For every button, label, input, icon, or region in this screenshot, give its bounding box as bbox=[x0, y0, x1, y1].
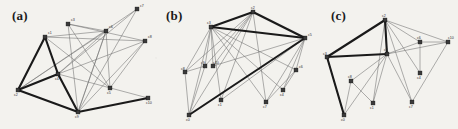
graph-edge-backbone bbox=[327, 57, 344, 115]
graph-edge-backbone bbox=[189, 38, 305, 115]
panel-label-a: (a) bbox=[12, 8, 28, 24]
graph-node[interactable] bbox=[410, 100, 414, 104]
graph-node[interactable] bbox=[418, 40, 422, 44]
graph-node[interactable] bbox=[43, 35, 47, 39]
graph-node-label: c4 bbox=[280, 93, 284, 97]
graph-edge bbox=[213, 38, 305, 66]
graph-edge bbox=[412, 42, 448, 102]
graph-edge-backbone bbox=[18, 37, 45, 90]
graph-node-label: c0 bbox=[186, 118, 190, 122]
graph-edge bbox=[266, 38, 305, 102]
graph-node[interactable] bbox=[209, 25, 213, 29]
graph-node[interactable] bbox=[446, 40, 450, 44]
graph-edge bbox=[385, 20, 412, 102]
panel-label-c: (c) bbox=[331, 8, 346, 24]
graph-edge bbox=[387, 42, 420, 54]
graph-edge bbox=[373, 54, 387, 103]
graph-node-label: c7 bbox=[140, 4, 144, 8]
graph-node[interactable] bbox=[383, 18, 387, 22]
graph-edge-backbone bbox=[78, 98, 148, 112]
graph-nodes: c2c3c5c8c9c10c6c4c1c7c0 bbox=[181, 6, 312, 122]
graph-edge bbox=[266, 70, 296, 102]
graph-node[interactable] bbox=[371, 101, 375, 105]
graph-edge bbox=[185, 12, 253, 72]
graph-node[interactable] bbox=[16, 88, 20, 92]
graph-node-label: c3 bbox=[207, 21, 211, 25]
graph-node-label: c6 bbox=[109, 25, 113, 29]
graph-edge bbox=[253, 12, 266, 102]
thin-edges bbox=[327, 20, 448, 115]
graph-node[interactable] bbox=[108, 86, 112, 90]
graph-node-label: c10 bbox=[213, 61, 219, 65]
graph-edge bbox=[351, 54, 387, 81]
graph-node-label: c2 bbox=[382, 14, 386, 18]
graph-edge bbox=[385, 20, 420, 42]
graph-edge bbox=[385, 20, 420, 73]
graph-edge bbox=[110, 41, 145, 88]
graph-edge bbox=[211, 27, 266, 102]
graph-edge bbox=[78, 9, 137, 112]
graph-edge-backbone bbox=[327, 20, 385, 57]
graph-node-label: c1 bbox=[218, 103, 222, 107]
graph-node[interactable] bbox=[143, 39, 147, 43]
graph-edge bbox=[351, 81, 373, 103]
graph-node-label: c8 bbox=[181, 67, 185, 71]
graph-node-label: c3 bbox=[323, 52, 327, 56]
graph-node-label: c2 bbox=[251, 6, 255, 10]
graph-node-label: c5 bbox=[384, 48, 388, 52]
graph-node-label: c1 bbox=[48, 31, 52, 35]
graph-node[interactable] bbox=[104, 29, 108, 33]
graph-node[interactable] bbox=[146, 96, 150, 100]
graph-node-label: c6 bbox=[417, 36, 421, 40]
graph-node-label: c7 bbox=[263, 105, 267, 109]
graph-node-label: c6 bbox=[299, 65, 303, 69]
graph-node[interactable] bbox=[56, 72, 60, 76]
graph-node[interactable] bbox=[187, 113, 191, 117]
graph-node-label: c4 bbox=[55, 77, 59, 81]
graph-node-label: c1 bbox=[370, 106, 374, 110]
figure-graph-panels: c1c2c3c4c5c6c7c8c9c10 c2c3c5c8c9c10c6c4c… bbox=[0, 0, 458, 129]
graph-node[interactable] bbox=[385, 52, 389, 56]
graph-edge bbox=[373, 20, 385, 103]
graph-edge bbox=[283, 70, 296, 90]
graph-node-label: c0 bbox=[341, 118, 345, 122]
graph-node-label: c9 bbox=[201, 61, 205, 65]
graph-node-label: c7 bbox=[409, 105, 413, 109]
graph-node[interactable] bbox=[418, 71, 422, 75]
graph-node-label: c4 bbox=[417, 76, 421, 80]
panel-label-b: (b) bbox=[166, 8, 183, 24]
graph-node-label: c3 bbox=[71, 18, 75, 22]
graph-edge-backbone bbox=[327, 54, 387, 57]
graph-node[interactable] bbox=[76, 110, 80, 114]
graph-node[interactable] bbox=[219, 98, 223, 102]
graph-edge bbox=[387, 54, 412, 102]
graph-node-label: c8 bbox=[348, 75, 352, 79]
graph-node[interactable] bbox=[66, 22, 70, 26]
graph-node[interactable] bbox=[281, 88, 285, 92]
graph-node-label: c10 bbox=[146, 101, 152, 105]
graph-edge bbox=[211, 27, 296, 70]
graph-node-label: c2 bbox=[14, 93, 18, 97]
graph-node[interactable] bbox=[135, 7, 139, 11]
graph-node[interactable] bbox=[264, 100, 268, 104]
graph-node[interactable] bbox=[342, 113, 346, 117]
graph-c: c2c3c5c6c10c4c8c1c7c0 bbox=[305, 0, 458, 129]
panel-c: c2c3c5c6c10c4c8c1c7c0 bbox=[305, 0, 458, 129]
graph-node[interactable] bbox=[294, 68, 298, 72]
graph-node-label: c5 bbox=[107, 91, 111, 95]
graph-node[interactable] bbox=[349, 79, 353, 83]
backbone-edges bbox=[189, 12, 305, 115]
graph-node-label: c8 bbox=[148, 35, 152, 39]
backbone-edges bbox=[18, 37, 148, 112]
graph-node-label: c10 bbox=[448, 36, 454, 40]
graph-edge bbox=[185, 72, 189, 115]
graph-edge bbox=[387, 42, 448, 54]
graph-edge bbox=[78, 31, 106, 112]
graph-edge-backbone bbox=[45, 37, 58, 74]
graph-node[interactable] bbox=[251, 10, 255, 14]
graph-node-label: c9 bbox=[75, 115, 79, 119]
graph-edge bbox=[189, 66, 205, 115]
